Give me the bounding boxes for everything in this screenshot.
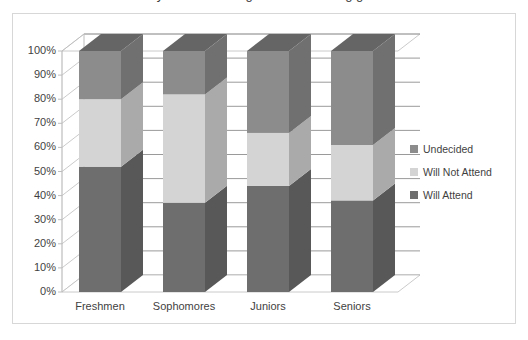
y-axis-tick-label: 90% <box>14 69 56 80</box>
legend-label-will-not-attend: Will Not Attend <box>423 166 492 178</box>
legend-item-will-not-attend[interactable]: Will Not Attend <box>410 160 512 183</box>
y-axis-tick-label: 60% <box>14 141 56 152</box>
legend-label-will-attend: Will Attend <box>423 189 473 201</box>
legend-label-undecided: Undecided <box>423 143 473 155</box>
y-axis-tick-label: 70% <box>14 117 56 128</box>
y-axis-tick-label: 30% <box>14 214 56 225</box>
y-axis-tick-label: 10% <box>14 262 56 273</box>
legend-item-will-attend[interactable]: Will Attend <box>410 183 512 206</box>
y-axis-tick-label: 40% <box>14 190 56 201</box>
y-axis-tick-label: 20% <box>14 238 56 249</box>
legend-swatch-undecided <box>410 145 418 153</box>
y-axis-tick-label: 80% <box>14 93 56 104</box>
y-axis-tick-label: 50% <box>14 166 56 177</box>
y-axis-tick-label: 0% <box>14 286 56 297</box>
x-axis-category-label: Seniors <box>302 300 402 312</box>
legend-swatch-will-attend <box>410 191 418 199</box>
legend-swatch-will-not-attend <box>410 168 418 176</box>
legend-item-undecided[interactable]: Undecided <box>410 137 512 160</box>
chart-legend: Undecided Will Not Attend Will Attend <box>410 137 512 206</box>
y-axis-tick-label: 100% <box>14 45 56 56</box>
